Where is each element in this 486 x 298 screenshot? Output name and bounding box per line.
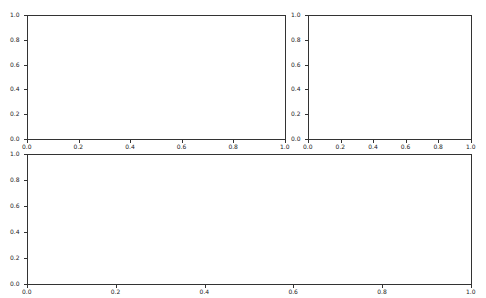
- y-tick-label: 0.0: [291, 136, 301, 142]
- x-tick-label: 0.4: [368, 144, 378, 150]
- axes-bottom: [27, 154, 472, 285]
- y-tick-label: 1.0: [291, 12, 301, 18]
- x-tick-label: 0.0: [22, 144, 32, 150]
- y-tick-mark: [24, 154, 27, 155]
- axes-top-left: [27, 15, 286, 140]
- y-tick-mark: [24, 15, 27, 16]
- y-tick-label: 0.0: [10, 281, 20, 287]
- y-tick-label: 0.8: [291, 37, 301, 43]
- x-tick-label: 0.4: [200, 289, 210, 295]
- y-tick-mark: [305, 114, 308, 115]
- y-tick-mark: [24, 89, 27, 90]
- y-tick-label: 1.0: [10, 12, 20, 18]
- y-tick-label: 0.2: [291, 111, 301, 117]
- x-tick-label: 0.8: [433, 144, 443, 150]
- y-tick-mark: [24, 40, 27, 41]
- x-tick-label: 0.0: [303, 144, 313, 150]
- y-tick-label: 0.4: [10, 229, 20, 235]
- y-tick-label: 0.6: [10, 62, 20, 68]
- y-tick-mark: [24, 206, 27, 207]
- y-tick-mark: [24, 258, 27, 259]
- y-tick-mark: [305, 15, 308, 16]
- x-tick-label: 0.0: [22, 289, 32, 295]
- x-tick-label: 0.8: [228, 144, 238, 150]
- x-tick-label: 1.0: [466, 144, 476, 150]
- x-tick-label: 0.6: [177, 144, 187, 150]
- y-tick-mark: [24, 180, 27, 181]
- x-tick-label: 1.0: [280, 144, 290, 150]
- x-tick-label: 0.2: [336, 144, 346, 150]
- y-tick-label: 0.2: [10, 111, 20, 117]
- x-tick-label: 0.6: [288, 289, 298, 295]
- y-tick-label: 0.6: [291, 62, 301, 68]
- y-tick-mark: [24, 65, 27, 66]
- y-tick-mark: [305, 65, 308, 66]
- axes-top-right: [308, 15, 472, 140]
- y-tick-label: 0.8: [10, 177, 20, 183]
- y-tick-label: 1.0: [10, 151, 20, 157]
- x-tick-label: 0.8: [377, 289, 387, 295]
- y-tick-label: 0.4: [291, 86, 301, 92]
- y-tick-label: 0.8: [10, 37, 20, 43]
- x-tick-label: 0.6: [401, 144, 411, 150]
- y-tick-label: 0.0: [10, 136, 20, 142]
- y-tick-mark: [24, 232, 27, 233]
- x-tick-label: 1.0: [466, 289, 476, 295]
- y-tick-label: 0.4: [10, 86, 20, 92]
- y-tick-label: 0.6: [10, 203, 20, 209]
- x-tick-label: 0.2: [111, 289, 121, 295]
- x-tick-label: 0.4: [125, 144, 135, 150]
- y-tick-mark: [305, 89, 308, 90]
- y-tick-label: 0.2: [10, 255, 20, 261]
- y-tick-mark: [305, 40, 308, 41]
- y-tick-mark: [24, 114, 27, 115]
- x-tick-label: 0.2: [74, 144, 84, 150]
